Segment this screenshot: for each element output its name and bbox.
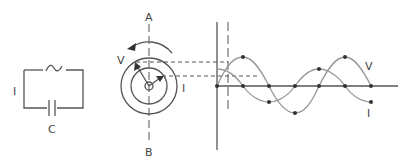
capacitor-ac-diagram: I C A B V I xyxy=(0,0,414,163)
rotation-arrow-icon xyxy=(127,43,136,51)
waveform-current-label: I xyxy=(367,107,370,120)
voltage-arrow-icon xyxy=(134,62,141,71)
phasor-voltage-label: V xyxy=(117,54,125,67)
phasor-diagram: A B V I xyxy=(117,11,185,159)
capacitor-label: C xyxy=(48,123,56,136)
circuit-wire-right xyxy=(57,70,83,108)
ac-source-icon xyxy=(46,65,62,71)
data-points xyxy=(215,55,373,115)
circuit-current-label: I xyxy=(13,85,16,98)
axis-label-a: A xyxy=(145,11,153,24)
waveform-voltage-label: V xyxy=(365,60,373,73)
phasor-current-label: I xyxy=(182,82,185,95)
current-arrow-icon xyxy=(156,76,164,82)
waveform-graph: V I xyxy=(215,22,398,150)
axis-label-b: B xyxy=(145,146,153,159)
circuit: I C xyxy=(13,65,83,136)
circuit-wire-left xyxy=(24,70,47,108)
rotation-arc xyxy=(132,42,172,53)
